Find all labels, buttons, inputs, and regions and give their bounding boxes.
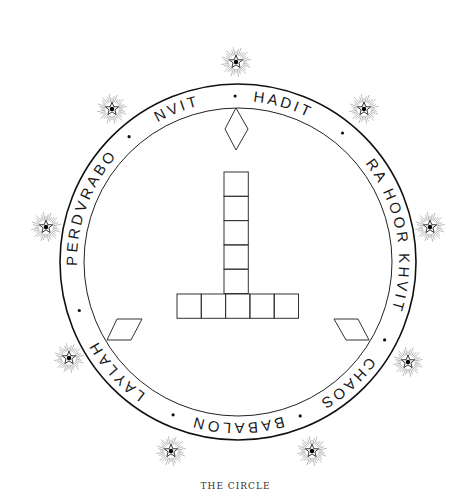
pentagram-stars — [31, 47, 445, 466]
separator-dot — [172, 413, 175, 416]
ring-label: BABALON — [189, 414, 287, 437]
cross-cell — [250, 294, 274, 318]
pentagram-star-icon — [349, 94, 379, 124]
ring-label: HADIT — [252, 88, 316, 121]
ring-labels: NVITHADITRA HOOR KHVITCHAOSBABALONLAYLAH… — [63, 88, 413, 437]
left-parallelogram — [107, 319, 142, 340]
cross-cell — [274, 294, 298, 318]
ring-label: PERDVRABO — [63, 146, 120, 266]
ring — [60, 84, 416, 440]
separator-dot — [78, 309, 81, 312]
separator-dot — [383, 338, 386, 341]
ring-label: LAYLAH — [84, 337, 147, 405]
separator-dot — [299, 414, 302, 417]
pentagram-star-icon — [97, 94, 127, 124]
cross-cell — [201, 294, 225, 318]
cross-cell — [226, 294, 250, 318]
ring-label: RA HOOR KHVIT — [363, 155, 413, 315]
pentagram-star-icon — [415, 212, 445, 242]
figure-caption: THE CIRCLE — [0, 481, 471, 491]
cross-cell — [224, 172, 248, 196]
separator-dot — [128, 135, 131, 138]
circle-diagram: NVITHADITRA HOOR KHVITCHAOSBABALONLAYLAH… — [0, 0, 471, 504]
diamond-shape — [225, 108, 248, 150]
pentagram-star-icon — [54, 343, 84, 373]
pentagram-star-icon — [297, 436, 327, 466]
cross-cell — [224, 196, 248, 220]
inner-ring-line — [84, 108, 392, 416]
pentagram-star-icon — [31, 212, 61, 242]
pentagram-star-icon — [156, 436, 186, 466]
cross-cell — [224, 245, 248, 269]
separator-dot — [341, 131, 344, 134]
cross-cell — [224, 269, 248, 293]
cross-cell — [177, 294, 201, 318]
pentagram-star-icon — [393, 347, 423, 377]
separator-dot — [234, 94, 237, 97]
ring-label: CHAOS — [316, 355, 379, 414]
pentagram-star-icon — [221, 47, 251, 77]
outer-ring-line — [60, 84, 416, 440]
ring-label: NVIT — [151, 92, 201, 125]
cross-cell — [224, 221, 248, 245]
right-parallelogram — [334, 319, 369, 340]
tau-cross-grid — [177, 172, 299, 318]
